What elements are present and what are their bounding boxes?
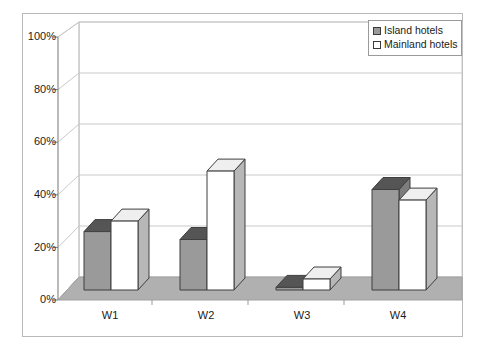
legend-item-mainland-hotels: Mainland hotels	[373, 38, 457, 51]
legend-swatch-icon-mainland	[373, 41, 381, 49]
x-axis-tick-label-w2: W2	[176, 309, 236, 321]
x-axis-tick-label-w3: W3	[272, 309, 332, 321]
x-axis-tick-label-w1: W1	[80, 309, 140, 321]
legend-label-island: Island hotels	[384, 25, 443, 36]
chart-container: 100% 80% 60% 40% 20% 0% W1 W2 W3 W4 Isla…	[0, 0, 484, 350]
legend-item-island-hotels: Island hotels	[373, 24, 457, 37]
legend-label-mainland: Mainland hotels	[384, 39, 458, 50]
legend-swatch-icon-island	[373, 27, 381, 35]
chart-legend: Island hotels Mainland hotels	[368, 20, 462, 56]
x-axis-tick-label-w4: W4	[368, 309, 428, 321]
